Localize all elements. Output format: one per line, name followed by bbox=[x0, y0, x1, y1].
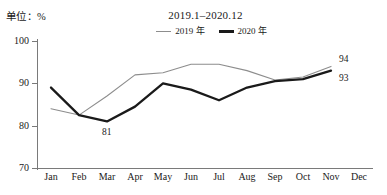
data-label-94: 94 bbox=[339, 54, 349, 64]
data-label-93: 93 bbox=[339, 73, 349, 83]
data-label-81: 81 bbox=[102, 127, 112, 137]
chart-plot-lines bbox=[0, 0, 387, 195]
figure-caption bbox=[0, 184, 387, 195]
chart-container: 单位：% 2019.1–2020.12 2019 年 2020 年 708090… bbox=[0, 0, 387, 195]
